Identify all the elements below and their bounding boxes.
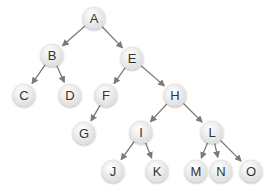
node-label: E — [128, 51, 137, 66]
node-label: J — [110, 164, 117, 179]
tree-node-i: I — [130, 121, 152, 143]
edge-h-l — [183, 103, 202, 122]
tree-node-b: B — [41, 44, 63, 66]
node-label: H — [170, 88, 179, 103]
node-label: M — [191, 164, 202, 179]
tree-node-d: D — [59, 84, 81, 106]
tree-node-m: M — [185, 160, 207, 182]
node-label: K — [153, 164, 162, 179]
node-label: F — [102, 88, 110, 103]
tree-node-n: N — [210, 160, 232, 182]
node-layer: ABCDEFGHIJKLMNO — [13, 7, 262, 182]
edge-a-e — [102, 27, 122, 48]
node-label: G — [79, 126, 89, 141]
tree-node-l: L — [201, 121, 223, 143]
tree-node-h: H — [164, 84, 186, 106]
node-label: B — [48, 48, 57, 63]
node-label: D — [65, 88, 74, 103]
node-label: C — [19, 88, 28, 103]
tree-node-a: A — [83, 7, 105, 29]
node-label: N — [216, 164, 225, 179]
edge-l-m — [201, 143, 207, 158]
tree-diagram: ABCDEFGHIJKLMNO — [0, 0, 276, 190]
node-label: A — [90, 11, 99, 26]
tree-node-c: C — [13, 84, 35, 106]
tree-node-f: F — [95, 84, 117, 106]
edge-a-b — [63, 26, 85, 46]
edge-e-f — [114, 68, 125, 84]
node-label: L — [208, 125, 215, 140]
edge-b-d — [57, 66, 64, 82]
edge-l-o — [220, 140, 241, 161]
edge-i-j — [121, 142, 134, 160]
node-label: O — [246, 164, 256, 179]
tree-node-g: G — [73, 122, 95, 144]
edge-i-k — [146, 143, 152, 158]
node-label: I — [139, 125, 143, 140]
tree-node-o: O — [240, 160, 262, 182]
tree-node-j: J — [102, 160, 124, 182]
edge-e-h — [141, 66, 164, 86]
edge-l-n — [215, 144, 218, 158]
edge-f-g — [91, 105, 100, 120]
edge-h-i — [150, 104, 166, 122]
tree-node-k: K — [146, 160, 168, 182]
tree-node-e: E — [121, 47, 143, 69]
edge-b-c — [32, 65, 45, 84]
